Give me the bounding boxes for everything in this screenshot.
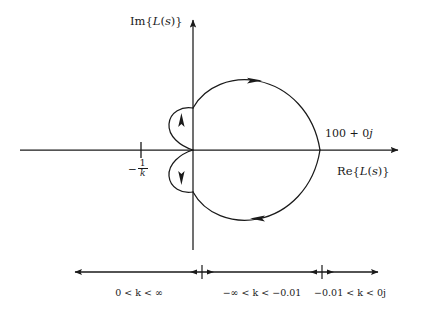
nyquist-plot-canvas [0,0,428,310]
gain-tick-numerator: 1 [138,159,148,168]
range-separator-1-right-arrowhead [207,269,214,274]
nyquist-main-loop-lower [193,150,320,220]
gain-tick-denominator: k [138,169,147,178]
gain-tick-minus-sign: − [128,164,137,175]
range-separator-2-right-arrowhead [327,269,334,274]
upper-lobe-direction-arrow [178,113,184,127]
lower-lobe-direction-arrow [178,171,184,185]
range-segment-label-2: −0.01 < k < 0j [314,288,386,298]
top-loop-direction-arrow [247,78,262,84]
nyquist-upper-small-lobe [169,108,193,150]
imaginary-axis-label: Im{L(s)} [130,16,183,28]
crossing-point-label: 100 + 0j [325,128,373,139]
crossing-point-value: 100 + 0 [325,127,369,140]
range-segment-label-1: −∞ < k < −0.01 [223,288,302,298]
nyquist-lower-small-lobe [169,150,193,192]
range-segment-label-0: 0 < k < ∞ [115,288,163,298]
range-separator-2-left-arrowhead [310,269,317,274]
range-separator-1-left-arrowhead [190,269,197,274]
nyquist-plot-figure: Im{L(s)} Re{L(s)} 100 + 0j − 1 k 0 < k <… [0,0,428,310]
gain-tick-fraction: 1 k [138,159,148,179]
real-axis-label: Re{L(s)} [337,166,390,178]
nyquist-main-loop-upper [193,80,320,150]
gain-tick-label: − 1 k [128,159,148,179]
